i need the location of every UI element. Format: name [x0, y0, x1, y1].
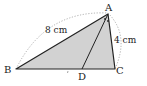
label-d: D: [78, 71, 86, 82]
tick-mark: [68, 71, 69, 73]
triangle-abc: [16, 14, 115, 69]
label-b: B: [4, 64, 11, 75]
label-c: C: [116, 65, 124, 76]
label-a: A: [104, 2, 113, 13]
angle-mark-a2: [107, 20, 109, 22]
angle-mark-a1: [104, 18, 106, 20]
triangle-diagram: A B C D 8 cm 4 cm: [0, 0, 147, 86]
length-label-ac: 4 cm: [114, 35, 137, 45]
length-label-ab: 8 cm: [45, 25, 68, 35]
